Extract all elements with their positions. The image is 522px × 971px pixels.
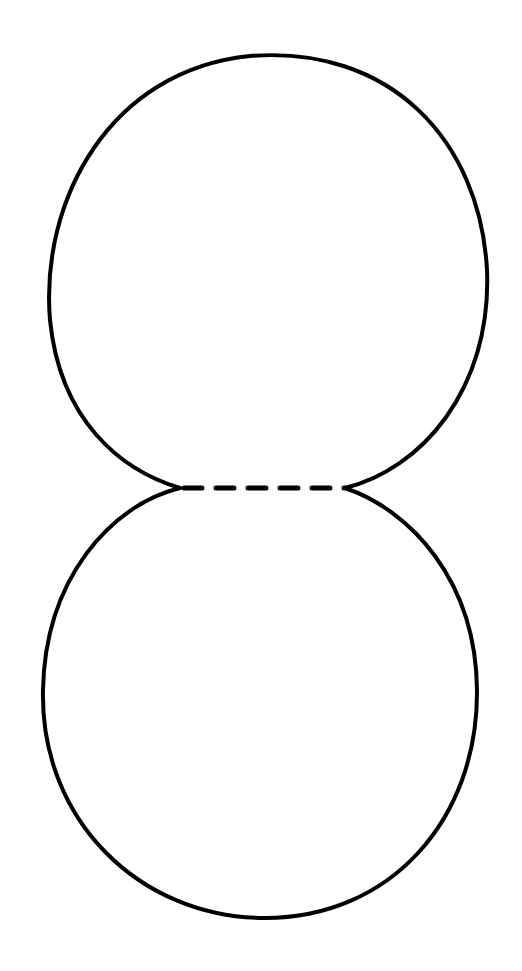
- diagram-canvas: [0, 0, 522, 971]
- bottom-circle: [43, 488, 477, 918]
- top-circle: [49, 55, 487, 488]
